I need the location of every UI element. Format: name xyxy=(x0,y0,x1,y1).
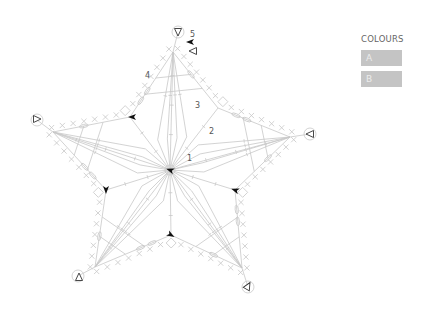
colour-swatch-b: B xyxy=(361,71,402,87)
colours-legend: COLOURS A B xyxy=(361,34,421,92)
round-labels: 12345 xyxy=(145,30,214,163)
round-number-label: 3 xyxy=(195,101,200,110)
round-number-label: 2 xyxy=(209,127,214,136)
round-number-label: 4 xyxy=(145,71,150,80)
round-number-label: 1 xyxy=(187,154,192,163)
round-number-label: 5 xyxy=(190,30,195,39)
colour-swatch-a: A xyxy=(361,50,402,66)
legend-title: COLOURS xyxy=(361,34,421,44)
crochet-star-chart: 12345 xyxy=(0,0,421,314)
